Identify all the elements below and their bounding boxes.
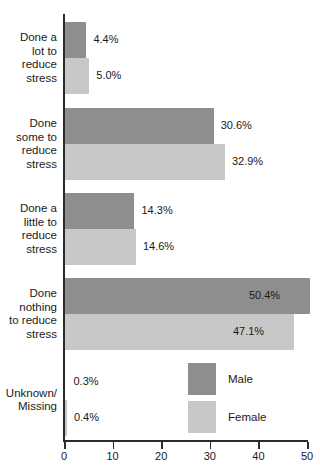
bar-value-male-2: 14.3%: [141, 204, 172, 216]
x-tick-label-20: 20: [155, 450, 167, 462]
category-label-4: Unknown/ Missing: [0, 387, 57, 414]
bar-value-female-4: 0.4%: [74, 411, 99, 423]
bar-male-1: [65, 108, 214, 144]
bar-male-0: [65, 22, 86, 58]
x-tick-0: [64, 442, 66, 449]
x-tick-30: [210, 442, 212, 449]
x-tick-label-30: 30: [204, 450, 216, 462]
bar-value-male-3: 50.4%: [249, 289, 280, 301]
bar-value-female-3: 47.1%: [233, 325, 264, 337]
bar-value-female-1: 32.9%: [232, 155, 263, 167]
x-tick-20: [161, 442, 163, 449]
bar-female-1: [65, 144, 225, 180]
x-tick-10: [113, 442, 115, 449]
chart-legend: Male Female: [188, 360, 266, 436]
x-tick-40: [258, 442, 260, 449]
legend-label-female: Female: [228, 411, 266, 423]
bar-value-female-0: 5.0%: [96, 69, 121, 81]
category-label-1: Done some to reduce stress: [0, 117, 57, 171]
plot-area: 01020304050 Done a lot to reduce stressD…: [0, 0, 320, 475]
category-label-0: Done a lot to reduce stress: [0, 31, 57, 85]
x-tick-label-0: 0: [61, 450, 67, 462]
bar-male-2: [65, 193, 134, 229]
bar-value-male-0: 4.4%: [93, 33, 118, 45]
category-label-3: Done nothing to reduce stress: [0, 287, 57, 341]
x-tick-50: [307, 442, 309, 449]
x-tick-label-10: 10: [106, 450, 118, 462]
x-axis-line: [63, 440, 308, 442]
bar-chart: 01020304050 Done a lot to reduce stressD…: [0, 0, 320, 475]
bar-value-female-2: 14.6%: [143, 240, 174, 252]
bar-female-0: [65, 58, 89, 94]
legend-swatch-male-icon: [188, 363, 216, 395]
bar-female-4: [65, 400, 67, 436]
legend-label-male: Male: [228, 373, 253, 385]
x-tick-label-50: 50: [301, 450, 313, 462]
legend-item-female: Female: [188, 398, 266, 436]
bar-value-male-4: 0.3%: [73, 375, 98, 387]
legend-item-male: Male: [188, 360, 266, 398]
legend-swatch-female-icon: [188, 401, 216, 433]
category-label-2: Done a little to reduce stress: [0, 202, 57, 256]
bar-value-male-1: 30.6%: [221, 119, 252, 131]
bar-female-2: [65, 229, 136, 265]
x-tick-label-40: 40: [252, 450, 264, 462]
